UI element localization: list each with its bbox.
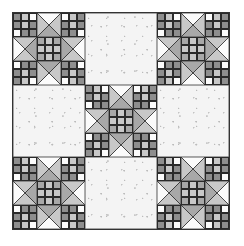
edge-hourglass-unit (13, 37, 37, 61)
corner-ninepatch (61, 61, 85, 85)
corner-ninepatch (61, 157, 85, 181)
patch-cell (45, 181, 53, 189)
patch-cell (29, 13, 37, 21)
center-ninepatch (181, 37, 205, 61)
patch-cell (37, 197, 45, 205)
patch-cell (101, 133, 109, 141)
patch-cell (173, 13, 181, 21)
patch-cell (37, 189, 45, 197)
patch-cell (13, 77, 21, 85)
patch-cell (205, 61, 213, 69)
patch-cell (85, 85, 93, 93)
edge-hourglass-unit (37, 61, 61, 85)
patch-cell (189, 189, 197, 197)
patch-cell (189, 53, 197, 61)
patch-cell (85, 101, 93, 109)
edge-hourglass-unit (109, 133, 133, 157)
patch-cell (157, 61, 165, 69)
patch-cell (21, 69, 29, 77)
patch-cell (21, 165, 29, 173)
patch-cell (13, 13, 21, 21)
patch-cell (221, 69, 229, 77)
patch-cell (13, 205, 21, 213)
patch-cell (93, 133, 101, 141)
edge-hourglass-unit (37, 205, 61, 229)
patch-cell (53, 53, 61, 61)
patch-cell (93, 149, 101, 157)
patch-cell (61, 61, 69, 69)
patch-cell (205, 173, 213, 181)
patch-cell (61, 29, 69, 37)
patch-cell (213, 13, 221, 21)
patch-cell (53, 181, 61, 189)
patch-cell (29, 77, 37, 85)
patch-cell (157, 69, 165, 77)
patch-cell (149, 85, 157, 93)
patch-cell (149, 141, 157, 149)
edge-hourglass-unit (181, 13, 205, 37)
patch-cell (157, 77, 165, 85)
patch-cell (69, 205, 77, 213)
corner-ninepatch (13, 61, 37, 85)
patch-cell (181, 37, 189, 45)
edge-hourglass-unit (157, 37, 181, 61)
patch-cell (133, 149, 141, 157)
patch-cell (61, 77, 69, 85)
patch-cell (61, 21, 69, 29)
patch-cell (13, 213, 21, 221)
patch-cell (37, 53, 45, 61)
corner-ninepatch (85, 85, 109, 109)
patch-cell (165, 29, 173, 37)
patch-cell (141, 149, 149, 157)
patch-cell (13, 221, 21, 229)
patch-cell (213, 157, 221, 165)
patch-cell (101, 93, 109, 101)
patch-cell (69, 77, 77, 85)
patch-cell (221, 77, 229, 85)
patch-cell (197, 37, 205, 45)
patch-cell (77, 173, 85, 181)
patch-cell (197, 197, 205, 205)
corner-ninepatch (205, 61, 229, 85)
corner-ninepatch (61, 205, 85, 229)
edge-hourglass-unit (157, 181, 181, 205)
patch-cell (53, 197, 61, 205)
edge-hourglass-unit (61, 37, 85, 61)
patch-cell (85, 141, 93, 149)
patch-cell (77, 213, 85, 221)
patch-cell (205, 221, 213, 229)
patch-cell (85, 149, 93, 157)
patch-cell (37, 45, 45, 53)
patch-cell (133, 133, 141, 141)
patch-cell (101, 85, 109, 93)
patch-cell (29, 205, 37, 213)
patch-cell (173, 165, 181, 173)
patch-cell (165, 157, 173, 165)
patch-cell (101, 149, 109, 157)
patch-cell (221, 173, 229, 181)
patch-cell (93, 85, 101, 93)
patch-cell (205, 213, 213, 221)
patch-cell (173, 213, 181, 221)
patch-cell (29, 61, 37, 69)
patch-cell (213, 29, 221, 37)
patch-cell (69, 13, 77, 21)
patch-cell (21, 173, 29, 181)
center-ninepatch (37, 181, 61, 205)
patch-cell (165, 221, 173, 229)
patch-cell (69, 221, 77, 229)
patch-cell (29, 165, 37, 173)
patch-cell (101, 141, 109, 149)
patch-cell (165, 205, 173, 213)
patch-cell (149, 101, 157, 109)
patch-cell (213, 61, 221, 69)
patch-cell (21, 13, 29, 21)
patch-cell (165, 165, 173, 173)
patch-cell (173, 157, 181, 165)
patch-cell (61, 165, 69, 173)
patch-cell (29, 69, 37, 77)
corner-ninepatch (133, 133, 157, 157)
patch-cell (173, 221, 181, 229)
patch-cell (109, 125, 117, 133)
patch-cell (141, 85, 149, 93)
